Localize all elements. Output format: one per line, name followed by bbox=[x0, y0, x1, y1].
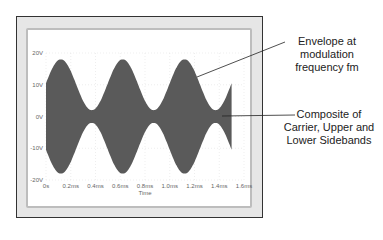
envelope-line-1: Envelope at bbox=[282, 35, 372, 48]
svg-text:1.2ms: 1.2ms bbox=[186, 183, 202, 189]
svg-text:0.6ms: 0.6ms bbox=[112, 183, 128, 189]
envelope-line-2: modulation bbox=[282, 48, 372, 61]
svg-text:10V: 10V bbox=[32, 82, 43, 88]
envelope-leader-line bbox=[197, 42, 285, 77]
svg-text:1.4ms: 1.4ms bbox=[211, 183, 227, 189]
svg-text:-20V: -20V bbox=[30, 177, 43, 183]
am-signal-area bbox=[46, 59, 232, 173]
svg-text:0V: 0V bbox=[36, 114, 43, 120]
x-axis-label: Time bbox=[138, 190, 152, 196]
svg-text:0.8ms: 0.8ms bbox=[137, 183, 153, 189]
x-axis-ticks: 0s0.2ms0.4ms0.6ms0.8ms1.0ms1.2ms1.4ms1.6… bbox=[43, 183, 252, 189]
composite-annotation: Composite of Carrier, Upper and Lower Si… bbox=[275, 108, 383, 147]
svg-text:1.0ms: 1.0ms bbox=[162, 183, 178, 189]
y-axis-ticks: 20V10V0V-10V-20V bbox=[30, 50, 43, 183]
composite-line-3: Lower Sidebands bbox=[275, 134, 383, 147]
svg-text:20V: 20V bbox=[32, 50, 43, 56]
svg-text:1.6ms: 1.6ms bbox=[236, 183, 252, 189]
envelope-line-3: frequency fm bbox=[282, 61, 372, 74]
svg-text:0.2ms: 0.2ms bbox=[63, 183, 79, 189]
envelope-annotation: Envelope at modulation frequency fm bbox=[282, 35, 372, 74]
svg-text:0.4ms: 0.4ms bbox=[87, 183, 103, 189]
svg-text:-10V: -10V bbox=[30, 145, 43, 151]
svg-text:0s: 0s bbox=[43, 183, 49, 189]
composite-line-1: Composite of bbox=[275, 108, 383, 121]
composite-line-2: Carrier, Upper and bbox=[275, 121, 383, 134]
